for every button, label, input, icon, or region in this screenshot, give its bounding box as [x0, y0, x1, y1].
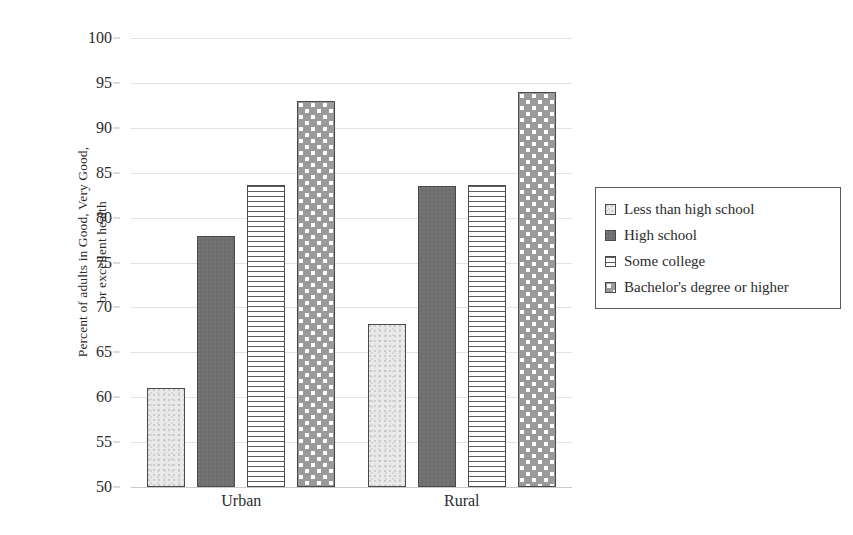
legend-label: Some college [624, 254, 705, 269]
y-axis-tick-labels: 50556065707580859095100 [0, 38, 122, 487]
y-axis-tick-label: 70 [96, 298, 112, 316]
plot-area [131, 38, 572, 487]
y-axis-tick-label: 85 [96, 164, 112, 182]
legend-swatch-icon-less-than-high-school [605, 204, 616, 215]
y-axis-tick-mark [113, 82, 120, 83]
y-axis-tick-label: 50 [96, 478, 112, 496]
y-axis-tick-mark [113, 442, 120, 443]
legend-item-bachelors-degree-or-higher[interactable]: Bachelor's degree or higher [605, 275, 830, 299]
y-axis-tick-label: 65 [96, 343, 112, 361]
bar-urban-series-2 [247, 185, 285, 487]
y-axis-tick-label: 90 [96, 119, 112, 137]
bar-rural-series-2 [468, 185, 506, 487]
bar-urban-series-0 [147, 388, 185, 487]
legend-item-less-than-high-school[interactable]: Less than high school [605, 197, 830, 221]
x-axis-tick-label: Rural [444, 492, 480, 510]
x-axis-tick-label: Urban [221, 492, 261, 510]
y-axis-tick-mark [113, 487, 120, 488]
bar-rural-series-0 [368, 324, 406, 487]
y-axis-tick-mark [113, 38, 120, 39]
gridline [131, 83, 572, 84]
legend-swatch-icon-some-college [605, 256, 616, 267]
y-axis-tick-label: 95 [96, 74, 112, 92]
y-axis-tick-mark [113, 397, 120, 398]
y-axis-tick-mark [113, 217, 120, 218]
bar-rural-series-3 [518, 92, 556, 487]
y-axis-tick-label: 55 [96, 433, 112, 451]
y-axis-tick-label: 60 [96, 388, 112, 406]
legend-swatch-icon-bachelors-degree-or-higher [605, 282, 616, 293]
bar-urban-series-3 [297, 101, 335, 487]
legend-item-high-school[interactable]: High school [605, 223, 830, 247]
bar-rural-series-1 [418, 186, 456, 487]
legend-label: Bachelor's degree or higher [624, 280, 789, 295]
y-axis-tick-label: 80 [96, 209, 112, 227]
legend-swatch-icon-high-school [605, 230, 616, 241]
y-axis-tick-mark [113, 352, 120, 353]
y-axis-tick-label: 75 [96, 254, 112, 272]
gridline [131, 128, 572, 129]
gridline [131, 218, 572, 219]
legend-item-some-college[interactable]: Some college [605, 249, 830, 273]
y-axis-tick-mark [113, 262, 120, 263]
legend-label: Less than high school [624, 202, 754, 217]
y-axis-tick-label: 100 [88, 29, 112, 47]
y-axis-tick-mark [113, 172, 120, 173]
bar-chart: Percent of adults in Good, Very Good, or… [0, 0, 853, 535]
gridline [131, 38, 572, 39]
gridline [131, 173, 572, 174]
x-axis-line [131, 487, 572, 488]
legend-label: High school [624, 228, 697, 243]
bar-urban-series-1 [197, 236, 235, 487]
y-axis-tick-mark [113, 127, 120, 128]
y-axis-tick-mark [113, 307, 120, 308]
legend: Less than high school High school Some c… [595, 187, 841, 309]
